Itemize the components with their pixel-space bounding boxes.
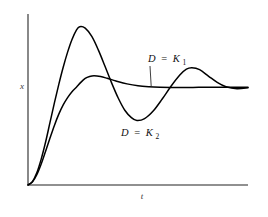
step-response-chart: x t D = K 1 D = K 2 — [0, 0, 268, 217]
annotation-k1-lhs: D — [147, 53, 156, 64]
annotation-k2-eq: = — [134, 127, 140, 138]
annotation-k2-lhs: D — [120, 127, 129, 138]
annotation-k2-rhs: K — [145, 127, 154, 138]
annotation-k1-subscript: 1 — [182, 58, 186, 67]
curve-d-equals-k2 — [28, 27, 248, 185]
leader-line-k1 — [150, 66, 151, 86]
y-axis-label: x — [19, 81, 24, 91]
annotation-k2-subscript: 2 — [155, 132, 159, 141]
annotation-k1: D = K 1 — [147, 53, 186, 67]
axes-group — [28, 14, 248, 185]
x-axis-label: t — [141, 191, 144, 201]
series-group — [28, 27, 248, 185]
annotation-k2: D = K 2 — [120, 127, 159, 141]
annotation-k1-rhs: K — [172, 53, 181, 64]
figure-container: x t D = K 1 D = K 2 — [0, 0, 268, 217]
annotation-k1-eq: = — [161, 53, 167, 64]
